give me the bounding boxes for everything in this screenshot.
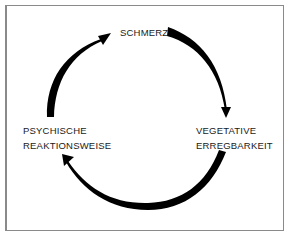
node-psychische-reaktionsweise: PSYCHISCHE REAKTIONSWEISE (23, 123, 111, 153)
node-schmerz: SCHMERZ (120, 25, 168, 40)
arrow-psychische-to-schmerz (47, 33, 111, 117)
arrow-schmerz-to-vegetative (167, 27, 231, 118)
node-label-line: ERREGBARKEIT (196, 138, 273, 153)
arrow-vegetative-to-psychische (62, 150, 226, 210)
node-label-line: PSYCHISCHE (23, 123, 111, 138)
arrow-body (66, 150, 226, 210)
node-vegetative-erregbarkeit: VEGETATIVE ERREGBARKEIT (196, 123, 273, 153)
arrowhead (98, 33, 111, 45)
arrow-body (167, 27, 227, 110)
node-label-line: VEGETATIVE (196, 123, 273, 138)
node-label-line: SCHMERZ (120, 25, 168, 40)
arrowhead (221, 107, 231, 118)
node-label-line: REAKTIONSWEISE (23, 138, 111, 153)
arrow-body (47, 39, 102, 117)
